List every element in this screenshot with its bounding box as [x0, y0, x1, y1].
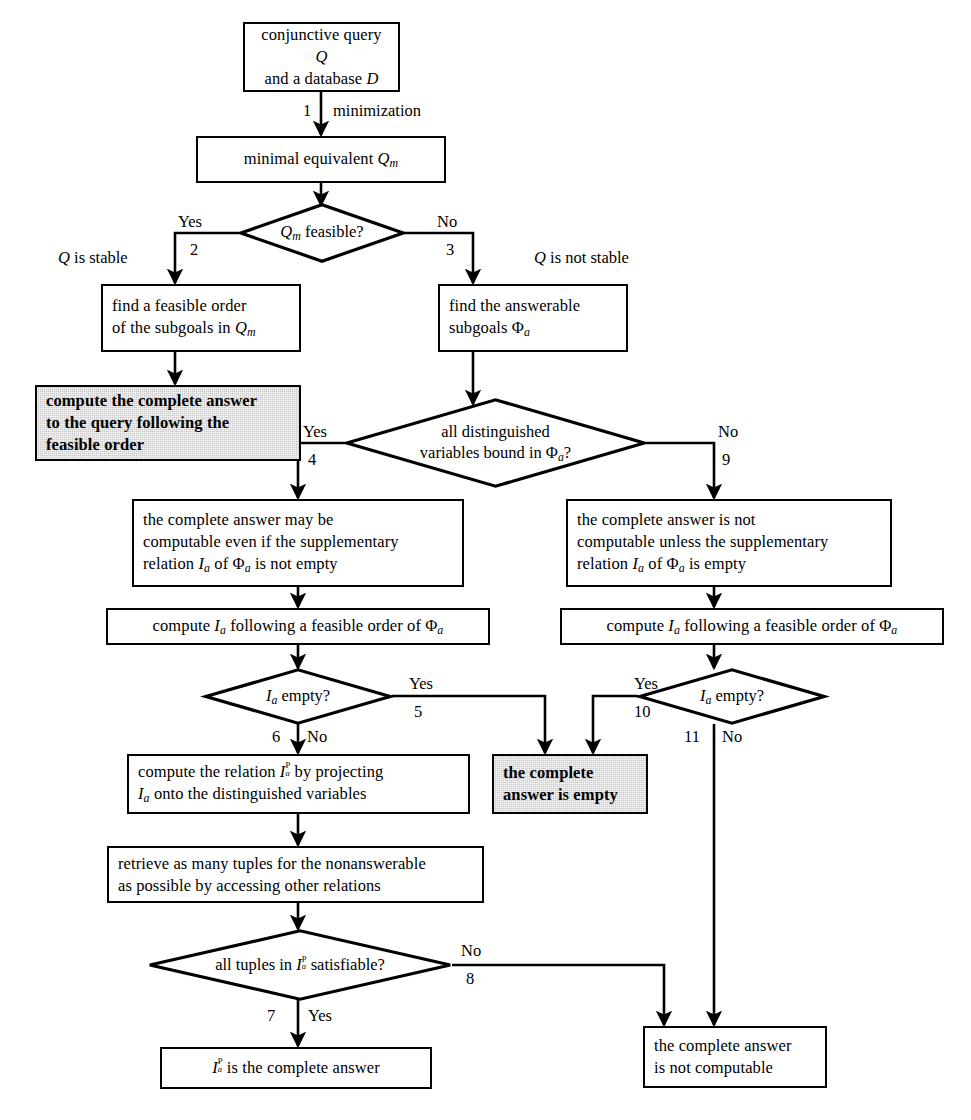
edge-bound-no	[646, 443, 714, 498]
node-compute-projection-text: compute the relation IPa by projectingIa…	[138, 761, 459, 807]
node-start-text: conjunctive query Qand a database D	[254, 24, 389, 89]
edge-label-3-number: 3	[446, 240, 454, 260]
edge-label-7-yes: Yes	[308, 1006, 332, 1026]
edge-label-8-no: No	[461, 941, 481, 961]
node-retrieve-tuples-text: retrieve as many tuples for the nonanswe…	[118, 853, 473, 897]
edge-label-7-number: 7	[267, 1006, 275, 1026]
node-compute-projection: compute the relation IPa by projectingIa…	[127, 754, 470, 814]
edge-label-11-number: 11	[684, 727, 700, 747]
edge-label-3-no: No	[437, 212, 457, 232]
edge-label-2-number: 2	[190, 240, 198, 260]
node-bound-variables-decision-text: all distinguishedvariables bound in Φa?	[345, 398, 646, 488]
edge-label-6-number: 6	[272, 727, 280, 747]
node-iap-is-complete-answer-text: IPa is the complete answer	[171, 1057, 421, 1079]
edge-iaemptyr-yes	[593, 696, 638, 753]
edge-label-6-no: No	[307, 727, 327, 747]
node-compute-ia-left: compute Ia following a feasible order of…	[106, 608, 490, 645]
node-find-feasible-order-text: find a feasible orderof the subgoals in …	[112, 295, 290, 341]
node-answer-not-computable: the complete answeris not computable	[643, 1026, 827, 1088]
edge-feasible-yes	[175, 233, 239, 283]
edge-label-2-text: Q is stable	[58, 248, 128, 268]
edge-label-5-yes: Yes	[409, 674, 433, 694]
node-minimal-equivalent-text: minimal equivalent Qm	[207, 148, 435, 172]
edge-label-4-number: 4	[308, 450, 316, 470]
edge-label-11-no: No	[722, 727, 742, 747]
node-compute-complete-answer: compute the complete answerto the query …	[35, 385, 301, 461]
node-answer-is-empty-text: the completeanswer is empty	[503, 762, 637, 806]
edge-bound-yes	[298, 443, 345, 498]
edge-label-2-yes: Yes	[178, 212, 202, 232]
node-compute-ia-right: compute Ia following a feasible order of…	[560, 608, 944, 645]
node-may-be-computable: the complete answer may becomputable eve…	[132, 499, 464, 587]
edge-label-10-yes: Yes	[634, 674, 658, 694]
node-find-answerable-subgoals: find the answerablesubgoals Φa	[438, 284, 628, 352]
edge-label-9-no: No	[718, 422, 738, 442]
node-compute-ia-left-text: compute Ia following a feasible order of…	[117, 615, 479, 639]
edge-label-1-number: 1	[303, 101, 311, 121]
node-answer-not-computable-text: the complete answeris not computable	[654, 1035, 816, 1079]
node-feasible-decision-text: Qm feasible?	[239, 203, 405, 263]
node-find-answerable-subgoals-text: find the answerablesubgoals Φa	[449, 295, 617, 341]
edge-satisfiable-no	[452, 965, 664, 1025]
edge-label-8-number: 8	[466, 969, 474, 989]
edge-label-5-number: 5	[414, 702, 422, 722]
node-answer-is-empty: the completeanswer is empty	[492, 754, 648, 814]
node-start: conjunctive query Qand a database D	[243, 22, 400, 92]
node-tuples-satisfiable-decision: all tuples in IPa satisfiable?	[148, 929, 452, 1001]
node-find-feasible-order: find a feasible orderof the subgoals in …	[101, 284, 301, 352]
edge-feasible-no	[404, 233, 473, 283]
edge-label-9-number: 9	[722, 450, 730, 470]
node-may-be-computable-text: the complete answer may becomputable eve…	[143, 509, 453, 577]
node-not-computable-unless-text: the complete answer is notcomputable unl…	[577, 509, 881, 577]
node-ia-empty-left-decision: Ia empty?	[204, 668, 392, 725]
edge-label-4-yes: Yes	[303, 422, 327, 442]
node-tuples-satisfiable-decision-text: all tuples in IPa satisfiable?	[148, 929, 452, 1001]
flowchart-canvas: conjunctive query Qand a database D mini…	[0, 0, 971, 1120]
node-compute-complete-answer-text: compute the complete answerto the query …	[46, 390, 290, 455]
node-minimal-equivalent: minimal equivalent Qm	[196, 136, 446, 183]
edge-label-3-text: Q is not stable	[534, 248, 629, 268]
node-retrieve-tuples: retrieve as many tuples for the nonanswe…	[107, 846, 484, 903]
node-compute-ia-right-text: compute Ia following a feasible order of…	[571, 615, 933, 639]
node-ia-empty-right-decision: Ia empty?	[638, 668, 826, 725]
edge-label-1-text: minimization	[333, 101, 421, 121]
node-feasible-decision: Qm feasible?	[239, 203, 405, 263]
node-ia-empty-left-decision-text: Ia empty?	[204, 668, 392, 725]
node-not-computable-unless: the complete answer is notcomputable unl…	[566, 499, 892, 587]
edge-label-10-number: 10	[634, 702, 651, 722]
node-ia-empty-right-decision-text: Ia empty?	[638, 668, 826, 725]
node-bound-variables-decision: all distinguishedvariables bound in Φa?	[345, 398, 646, 488]
node-iap-is-complete-answer: IPa is the complete answer	[160, 1047, 432, 1089]
